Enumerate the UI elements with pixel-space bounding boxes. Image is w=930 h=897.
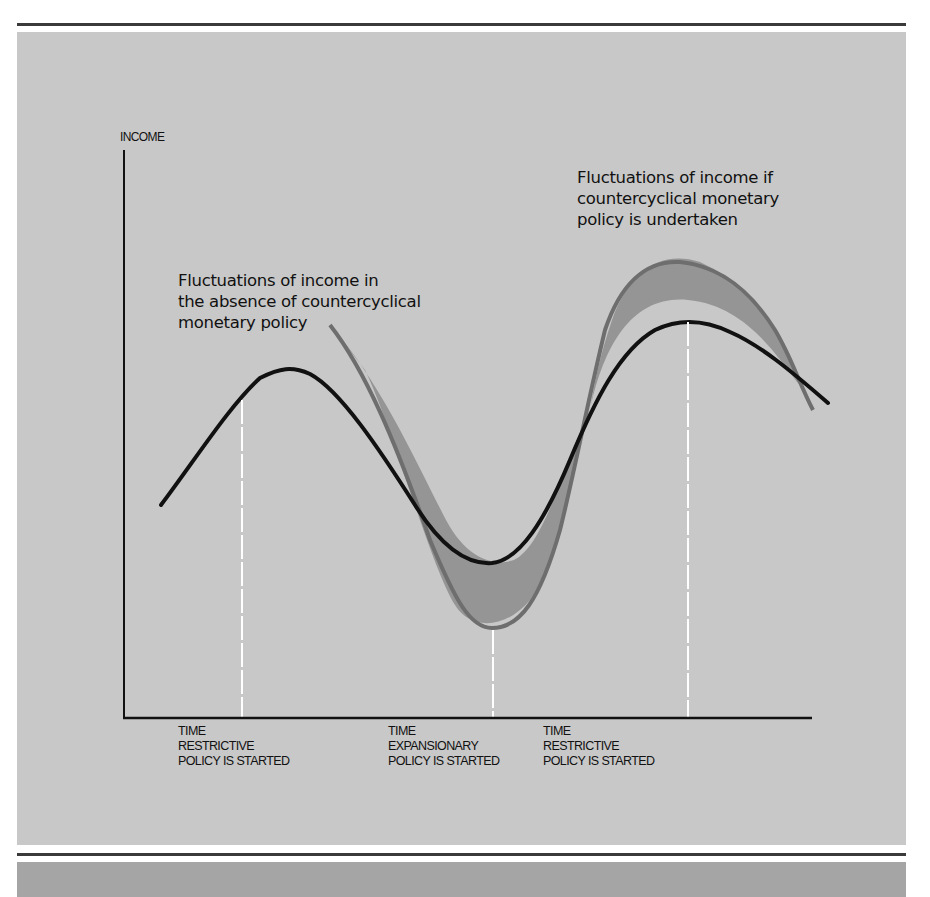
shaded-difference-trough (330, 325, 590, 623)
time-marker-label-2: TIME EXPANSIONARY POLICY IS STARTED (388, 724, 499, 769)
time-marker-label-3: TIME RESTRICTIVE POLICY IS STARTED (543, 724, 654, 769)
y-axis-label: INCOME (120, 130, 164, 144)
curve-with-policy (161, 322, 828, 563)
annotation-without-policy: Fluctuations of income in the absence of… (178, 270, 421, 333)
shaded-difference-peak (590, 259, 803, 410)
annotation-with-policy: Fluctuations of income if countercyclica… (577, 167, 779, 230)
time-marker-label-1: TIME RESTRICTIVE POLICY IS STARTED (178, 724, 289, 769)
